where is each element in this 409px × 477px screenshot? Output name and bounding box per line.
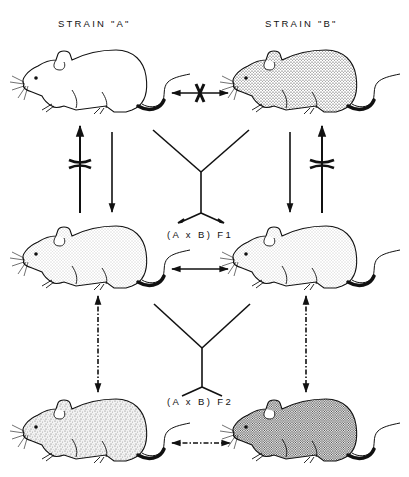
- mouse-body: [233, 399, 357, 461]
- arrow-a-b-blocked: [172, 84, 228, 102]
- label-f2: (A x B) F2: [167, 396, 233, 407]
- mouse-f1-left: [10, 226, 190, 290]
- mouse-body: [23, 50, 147, 112]
- mouse-eye: [34, 425, 38, 429]
- mouse-eye: [244, 425, 248, 429]
- arrow-f1-to-b-blocked: [310, 126, 334, 213]
- mouse-eye: [244, 252, 248, 256]
- mouse-strain-a: [10, 50, 190, 114]
- cross-symbol-f2: [154, 304, 250, 396]
- cross-symbol-f1: [153, 130, 249, 223]
- label-strain-a: STRAIN "A": [58, 18, 131, 29]
- mouse-f2-right: [220, 399, 400, 463]
- mouse-f1-right: [220, 226, 400, 290]
- arrow-f1-to-a-blocked: [69, 126, 91, 213]
- label-f1: (A x B) F1: [167, 229, 233, 240]
- label-strain-b: STRAIN "B": [265, 18, 338, 29]
- mouse-body: [23, 399, 147, 461]
- mouse-f2-left: [10, 399, 190, 463]
- mouse-eye: [34, 76, 38, 80]
- mouse-eye: [34, 252, 38, 256]
- mouse-strain-b: [220, 50, 400, 114]
- mouse-body: [233, 226, 357, 288]
- mouse-eye: [244, 76, 248, 80]
- mouse-body: [23, 226, 147, 288]
- mouse-body: [233, 50, 357, 112]
